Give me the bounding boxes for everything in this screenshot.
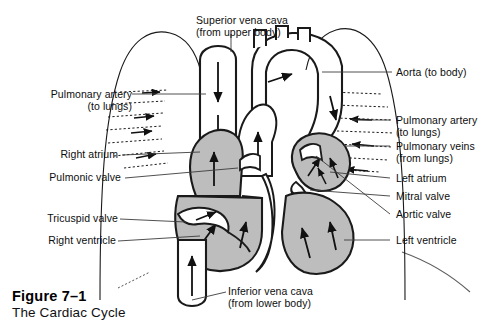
label-pulmonic-valve: Pulmonic valve [18,171,121,183]
label-mitral-valve-line1: Mitral valve [396,190,450,202]
label-aorta: Aorta (to body) [396,66,467,78]
label-aortic-valve-line1: Aortic valve [396,208,451,220]
label-pulmonary-veins-line1: Pulmonary veins [396,140,475,152]
cardiac-cycle-figure: Superior vena cava (from upper body) Pul… [0,0,503,333]
label-tricuspid-valve-line1: Tricuspid valve [47,212,118,224]
label-tricuspid-valve: Tricuspid valve [18,212,118,224]
pulmonic-valve-leaflets [240,154,260,170]
figure-caption-title: Figure 7–1 [12,288,126,305]
figure-caption: Figure 7–1 The Cardiac Cycle [12,288,126,321]
label-pulmonary-artery-right-line2: (to lungs) [396,126,477,138]
label-left-atrium-line1: Left atrium [396,172,446,184]
label-inferior-vena-cava: Inferior vena cava (from lower body) [228,285,313,309]
label-superior-vena-cava: Superior vena cava (from upper body) [196,14,288,38]
label-right-ventricle: Right ventricle [18,234,116,246]
label-pulmonary-veins-line2: (from lungs) [396,152,475,164]
label-pulmonary-veins: Pulmonary veins (from lungs) [396,140,475,164]
figure-caption-subtitle: The Cardiac Cycle [12,305,126,321]
label-pulmonary-artery-left-line2: (to lungs) [22,100,132,112]
label-inferior-vena-cava-line1: Inferior vena cava [228,285,313,297]
label-left-ventricle: Left ventricle [396,234,457,246]
label-left-ventricle-line1: Left ventricle [396,234,457,246]
label-left-atrium: Left atrium [396,172,446,184]
label-right-atrium: Right atrium [22,148,118,160]
label-aorta-line1: Aorta (to body) [396,66,467,78]
label-pulmonary-artery-left-line1: Pulmonary artery [51,88,132,100]
label-right-atrium-line1: Right atrium [60,148,118,160]
label-pulmonary-artery-right: Pulmonary artery (to lungs) [396,114,477,138]
label-pulmonary-artery-left: Pulmonary artery (to lungs) [22,88,132,112]
label-mitral-valve: Mitral valve [396,190,450,202]
label-superior-vena-cava-line1: Superior vena cava [196,14,288,26]
label-pulmonary-artery-right-line1: Pulmonary artery [396,114,477,126]
label-inferior-vena-cava-line2: (from lower body) [228,297,313,309]
inferior-vena-cava-vessel [178,240,206,306]
label-superior-vena-cava-line2: (from upper body) [196,26,288,38]
label-right-ventricle-line1: Right ventricle [48,234,116,246]
label-pulmonic-valve-line1: Pulmonic valve [49,171,121,183]
heart-diagram [0,0,503,333]
label-aortic-valve: Aortic valve [396,208,451,220]
